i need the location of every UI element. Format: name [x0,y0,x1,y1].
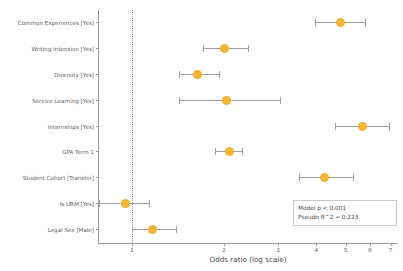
odds-ratio-point [193,70,202,79]
ci-upper-cap [248,45,249,52]
odds-ratio-point [148,225,157,234]
y-axis-tick [96,151,99,152]
x-axis-tick [316,243,317,246]
ci-lower-cap [335,123,336,130]
y-axis-tick-label: Diversity [Yes] [54,68,94,82]
pseudo-r2-value: Pseudo R^2 = 0.223 [298,213,392,222]
y-axis-tick-label: Writing Intensive [Yes] [31,42,94,56]
x-axis-tick-label: 7 [389,247,393,253]
x-axis-tick-label: 4 [314,247,318,253]
y-axis-tick [96,74,99,75]
forest-row: Writing Intensive [Yes] [99,42,398,56]
ci-lower-cap [215,148,216,155]
ci-lower-cap [299,174,300,181]
y-axis-tick [96,100,99,101]
model-stats-annotation: Model p < 0.001 Pseudo R^2 = 0.223 [293,200,397,226]
y-axis-tick-label: Is URM [Yes] [60,197,94,211]
y-axis-tick-label: Common Experiences [Yes] [18,16,94,30]
forest-row: Student Cohort [Transfer] [99,171,398,185]
model-p-value: Model p < 0.001 [298,204,392,213]
odds-ratio-point [336,18,345,27]
x-axis-tick [278,243,279,246]
x-axis-tick [346,243,347,246]
y-axis-tick-label: Internships [Yes] [48,120,94,134]
x-axis-tick-label: 6 [368,247,372,253]
ci-lower-cap [179,71,180,78]
forest-row: Service Learning [Yes] [99,94,398,108]
y-axis-tick [96,229,99,230]
ci-lower-cap [203,45,204,52]
odds-ratio-point [358,122,367,131]
x-axis-tick-label: 2 [222,247,226,253]
ci-lower-cap [179,97,180,104]
x-axis-tick [391,243,392,246]
odds-ratio-point [222,96,231,105]
x-axis-tick [224,243,225,246]
forest-row: Common Experiences [Yes] [99,16,398,30]
x-axis-tick-label: 3 [276,247,280,253]
y-axis-tick [96,22,99,23]
ci-lower-cap [132,226,133,233]
y-axis-tick [96,48,99,49]
ci-lower-cap [315,19,316,26]
x-axis-tick-label: 5 [344,247,348,253]
odds-ratio-point [225,147,234,156]
ci-lower-cap [99,200,100,207]
x-axis-tick-label: 1 [130,247,134,253]
y-axis-tick-label: Legal Sex [Male] [48,223,94,237]
ci-upper-cap [353,174,354,181]
y-axis-tick [96,177,99,178]
y-axis-tick [96,126,99,127]
odds-ratio-point [320,173,329,182]
ci-upper-cap [365,19,366,26]
ci-upper-cap [219,71,220,78]
x-axis-tick [132,243,133,246]
y-axis-tick-label: Service Learning [Yes] [32,94,94,108]
ci-upper-cap [242,148,243,155]
forest-plot-figure: 1234567Common Experiences [Yes]Writing I… [0,0,403,271]
x-axis-tick [370,243,371,246]
forest-row: Internships [Yes] [99,120,398,134]
y-axis-tick-label: Student Cohort [Transfer] [23,171,94,185]
ci-upper-cap [389,123,390,130]
forest-row: GPA Term 1 [99,145,398,159]
forest-row: Diversity [Yes] [99,68,398,82]
y-axis-tick-label: GPA Term 1 [62,145,94,159]
ci-upper-cap [149,200,150,207]
ci-upper-cap [176,226,177,233]
odds-ratio-point [220,44,229,53]
ci-upper-cap [280,97,281,104]
x-axis-title: Odds ratio (log scale) [98,255,398,264]
odds-ratio-point [121,199,130,208]
